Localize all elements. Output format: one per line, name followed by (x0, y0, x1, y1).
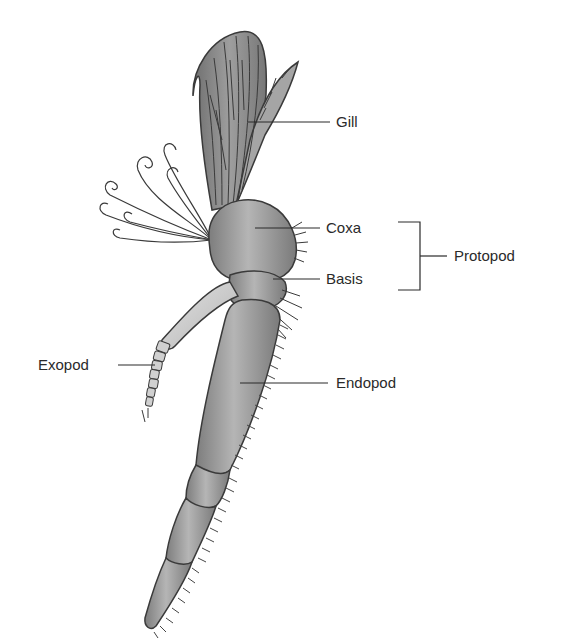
label-gill: Gill (336, 114, 358, 129)
gill-structure (193, 32, 298, 210)
label-coxa: Coxa (326, 220, 361, 235)
label-endopod: Endopod (336, 375, 396, 390)
label-exopod: Exopod (38, 357, 89, 372)
label-protopod: Protopod (454, 248, 515, 263)
endopod-distal-segment-2 (166, 498, 216, 565)
label-basis: Basis (326, 271, 363, 286)
appendage-illustration (0, 0, 566, 643)
appendage-diagram: Gill Coxa Basis Protopod Exopod Endopod (0, 0, 566, 643)
setae-curls (100, 144, 212, 242)
protopod-bracket (398, 222, 420, 290)
exopod-flagellum (142, 340, 170, 422)
endopod-dactyl (145, 558, 192, 628)
